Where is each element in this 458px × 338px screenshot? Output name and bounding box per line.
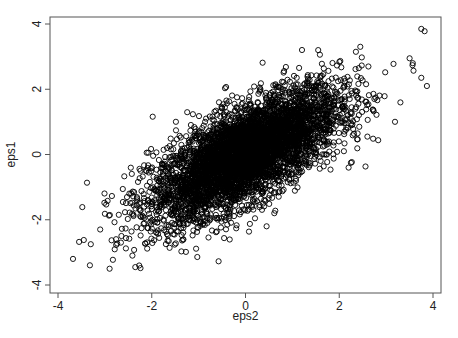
y-axis-title: eps1 <box>4 141 18 167</box>
x-axis-title: eps2 <box>232 309 258 323</box>
x-tick-label: 4 <box>430 299 437 313</box>
scatter-plot: -4-2024 -4-2024 eps2 eps1 <box>0 0 458 338</box>
y-tick-label: 2 <box>30 86 44 93</box>
y-tick-label: 4 <box>30 20 44 27</box>
y-tick-label: 0 <box>30 151 44 158</box>
x-tick-label: -4 <box>53 299 64 313</box>
y-tick-label: -2 <box>30 214 44 225</box>
x-tick-label: -2 <box>146 299 157 313</box>
x-tick-label: 2 <box>336 299 343 313</box>
y-tick-label: -4 <box>30 279 44 290</box>
